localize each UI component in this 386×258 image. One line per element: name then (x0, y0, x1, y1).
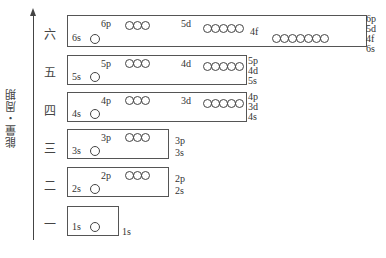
orbitals-3p (125, 133, 149, 142)
period-label-6: 六 (44, 25, 56, 42)
orbital-label-6s: 6s (72, 32, 81, 43)
order-list-6: 6p 5d 4f 6s (366, 14, 376, 54)
orbital-label-3p: 3p (101, 132, 111, 143)
period-label-2: 二 (44, 176, 56, 193)
orbital-label-2p: 2p (101, 170, 111, 181)
period-label-5: 五 (44, 63, 56, 80)
period-box-2: 2p 2s (67, 167, 169, 197)
order-list-1: 1s (122, 227, 131, 237)
axis-line (33, 14, 34, 240)
orbital-label-5d: 5d (181, 18, 191, 29)
period-label-4: 四 (44, 101, 56, 118)
orbital-label-5s: 5s (72, 71, 81, 82)
orbital-label-4d: 4d (181, 58, 191, 69)
axis-label: 能量・周期 (6, 88, 20, 148)
period-label-3: 三 (44, 139, 56, 156)
orbitals-3d (203, 99, 243, 108)
orbital-label-1s: 1s (72, 221, 81, 232)
period-box-6: 6p 5d 4f 6s (67, 15, 367, 47)
orbitals-5d (203, 24, 243, 33)
orbital-circle-icon (141, 21, 150, 30)
period-label-1: 一 (44, 215, 56, 232)
order-list-2: 2p 2s (175, 173, 185, 197)
orbitals-6p (125, 21, 149, 30)
orbitals-5p (125, 59, 149, 68)
period-box-3: 3p 3s (67, 129, 169, 159)
orbital-2s-icon (90, 184, 100, 194)
orbitals-4f (272, 34, 328, 43)
orbital-label-4s: 4s (72, 108, 81, 119)
orbital-label-6p: 6p (101, 18, 111, 29)
orbital-label-2s: 2s (72, 183, 81, 194)
orbital-label-3d: 3d (181, 95, 191, 106)
orbital-3s-icon (90, 146, 100, 156)
orbital-5s-icon (90, 72, 100, 82)
order-list-3: 3p 3s (175, 135, 185, 159)
orbitals-4p (125, 96, 149, 105)
orbitals-4d (203, 62, 243, 71)
period-box-5: 5p 4d 5s (67, 55, 247, 85)
period-box-1: 1s (67, 206, 119, 236)
order-list-4: 4p 3d 4s (248, 92, 258, 122)
order-list-5: 5p 4d 5s (248, 56, 258, 86)
orbital-4s-icon (90, 109, 100, 119)
period-box-4: 4p 3d 4s (67, 92, 247, 122)
orbitals-2p (125, 171, 149, 180)
orbital-label-4f: 4f (250, 26, 258, 37)
orbital-6s-icon (90, 34, 100, 44)
orbital-label-5p: 5p (101, 58, 111, 69)
orbital-1s-icon (90, 222, 100, 232)
orbital-label-3s: 3s (72, 145, 81, 156)
orbital-label-4p: 4p (101, 95, 111, 106)
